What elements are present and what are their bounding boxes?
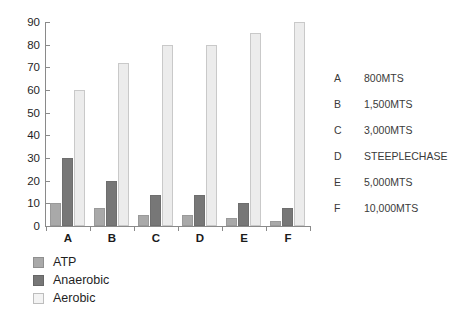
x-tick	[222, 226, 223, 231]
x-tick-label-f: F	[273, 232, 303, 244]
key-value: 10,000MTS	[364, 202, 418, 214]
bar-group	[90, 22, 134, 226]
bar-chart: 0102030405060708090 ABCDEF ATPAnaerobicA…	[0, 0, 320, 250]
bar-anaerobic-c	[150, 195, 161, 226]
key-value: 1,500MTS	[364, 98, 412, 110]
bar-anaerobic-e	[238, 203, 249, 226]
legend-label: Aerobic	[53, 291, 95, 305]
bar-atp-d	[182, 215, 193, 226]
x-tick-label-e: E	[229, 232, 259, 244]
x-tick	[178, 226, 179, 231]
bar-anaerobic-b	[106, 181, 117, 226]
bar-aerobic-e	[250, 33, 261, 226]
x-tick-label-a: A	[53, 232, 83, 244]
legend-swatch-atp	[33, 257, 44, 268]
bar-atp-f	[270, 221, 281, 226]
bar-aerobic-c	[162, 45, 173, 226]
legend-item-atp: ATP	[33, 253, 109, 271]
key-value: STEEPLECHASE	[364, 150, 447, 162]
key-value: 5,000MTS	[364, 176, 412, 188]
y-tick-label: 60	[12, 85, 40, 95]
x-tick	[134, 226, 135, 231]
bar-atp-e	[226, 218, 237, 226]
key-letter: E	[334, 176, 364, 188]
key-row-f: F10,000MTS	[334, 202, 447, 228]
series-legend: ATPAnaerobicAerobic	[33, 253, 109, 307]
legend-swatch-aerobic	[33, 293, 44, 304]
legend-label: ATP	[53, 255, 76, 269]
x-tick	[46, 226, 47, 231]
key-letter: B	[334, 98, 364, 110]
legend-item-anaerobic: Anaerobic	[33, 271, 109, 289]
y-tick-label: 30	[12, 153, 40, 163]
key-row-a: A800MTS	[334, 72, 447, 98]
bar-atp-b	[94, 208, 105, 226]
y-tick-label: 90	[12, 17, 40, 27]
key-row-b: B1,500MTS	[334, 98, 447, 124]
bar-aerobic-d	[206, 45, 217, 226]
bar-aerobic-b	[118, 63, 129, 226]
bar-aerobic-f	[294, 22, 305, 226]
y-tick-label: 80	[12, 40, 40, 50]
key-value: 3,000MTS	[364, 124, 412, 136]
key-row-c: C3,000MTS	[334, 124, 447, 150]
bar-group	[178, 22, 222, 226]
x-tick	[310, 226, 311, 231]
y-tick-label: 10	[12, 198, 40, 208]
key-letter: F	[334, 202, 364, 214]
key-letter: D	[334, 150, 364, 162]
legend-item-aerobic: Aerobic	[33, 289, 109, 307]
y-tick-label: 40	[12, 130, 40, 140]
bar-anaerobic-d	[194, 195, 205, 226]
y-tick-label: 0	[12, 221, 40, 231]
bar-anaerobic-a	[62, 158, 73, 226]
y-tick-label: 70	[12, 62, 40, 72]
plot-area	[46, 22, 310, 226]
x-tick	[90, 226, 91, 231]
x-tick	[266, 226, 267, 231]
y-tick-label: 20	[12, 176, 40, 186]
bar-group	[46, 22, 90, 226]
key-letter: A	[334, 72, 364, 84]
x-tick-label-c: C	[141, 232, 171, 244]
x-tick-label-b: B	[97, 232, 127, 244]
key-row-e: E5,000MTS	[334, 176, 447, 202]
y-tick-label: 50	[12, 108, 40, 118]
legend-swatch-anaerobic	[33, 275, 44, 286]
bar-atp-a	[50, 203, 61, 226]
key-letter: C	[334, 124, 364, 136]
category-key: A800MTSB1,500MTSC3,000MTSDSTEEPLECHASEE5…	[334, 72, 447, 228]
bar-group	[134, 22, 178, 226]
legend-label: Anaerobic	[53, 273, 109, 287]
bar-group	[222, 22, 266, 226]
bar-aerobic-a	[74, 90, 85, 226]
key-value: 800MTS	[364, 72, 404, 84]
bar-atp-c	[138, 215, 149, 226]
bar-group	[266, 22, 310, 226]
x-tick-label-d: D	[185, 232, 215, 244]
bar-anaerobic-f	[282, 208, 293, 226]
key-row-d: DSTEEPLECHASE	[334, 150, 447, 176]
